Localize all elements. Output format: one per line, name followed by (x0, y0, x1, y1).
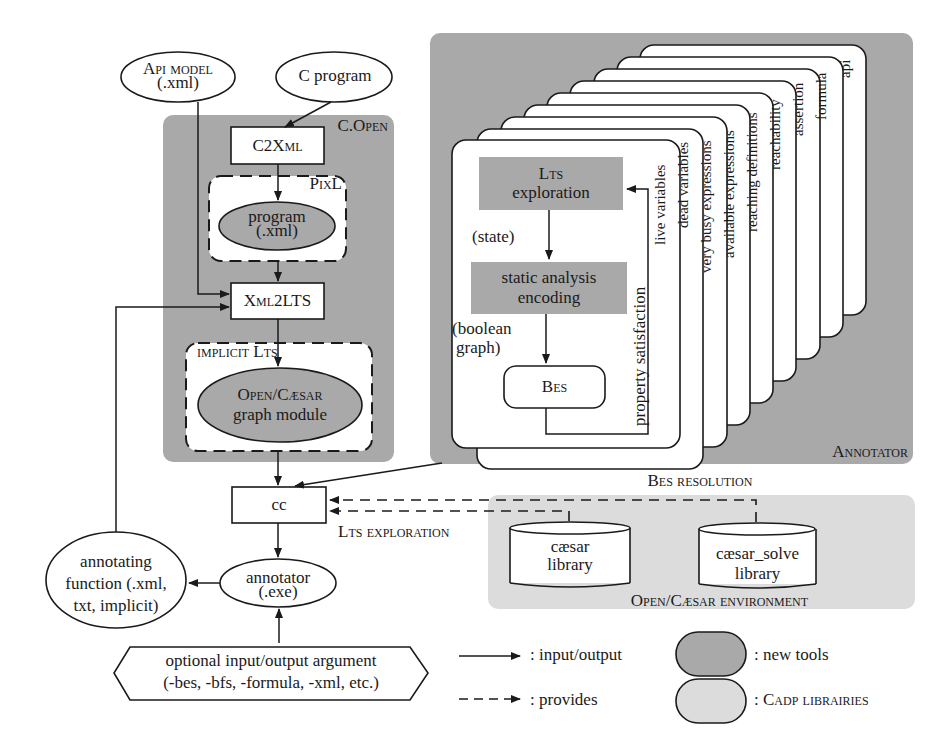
property-satisfaction-label: property satisfaction (630, 287, 650, 426)
annotating-function-line2: function (.xml, (46, 575, 186, 593)
card-reaching-definitions: reaching definitions (744, 112, 761, 232)
lts-exploration-title: Lts (479, 165, 623, 183)
pixl-title: PixL (280, 175, 342, 193)
bes-resolution-label: Bes resolution (620, 472, 780, 490)
card-assertion: assertion (790, 83, 807, 136)
xml2lts-label: Xml2LTS (231, 292, 324, 310)
legend-new-tools-label: : new tools (754, 646, 904, 664)
api-model-ext: (.xml) (128, 74, 228, 92)
c2xml-label: C2Xml (231, 137, 324, 155)
state-label: (state) (472, 228, 542, 246)
optional-args-line2: (-bes, -bfs, -formula, -xml, etc.) (114, 674, 428, 692)
lts-exploration-subtitle: exploration (479, 184, 623, 202)
program-ext: (.xml) (227, 222, 327, 240)
legend-provides-label: : provides (530, 691, 670, 709)
boolean-graph-label-2: graph) (456, 339, 536, 357)
card-available-expressions: available expressions (721, 130, 738, 258)
card-live-variables: live variables (652, 165, 669, 245)
lts-exploration-edge-label: Lts exploration (338, 523, 498, 541)
caesar-solve-library-line1: cæsar_solve (699, 545, 816, 563)
open-caesar-module-label: Open/Cæsar (210, 386, 350, 404)
c-program-label: C program (280, 67, 390, 85)
graph-module-label: graph module (210, 406, 350, 424)
card-api: api (837, 60, 854, 78)
caesar-library-line2: library (510, 556, 630, 574)
card-formula: formula (813, 73, 830, 120)
legend-new-tools-swatch (676, 632, 746, 676)
bes-label: Bes (504, 378, 605, 396)
encoding-label: encoding (471, 289, 627, 307)
environment-title: Open/Cæsar environment (600, 592, 808, 610)
caesar-library-line1: cæsar (510, 538, 630, 556)
annotating-function-line1: annotating (56, 553, 176, 571)
card-very-busy-expressions: very busy expressions (698, 141, 715, 273)
annotator-title: Annotator (760, 443, 908, 461)
legend-cadp-libraries-swatch (676, 679, 746, 723)
caesar-solve-library-line2: library (699, 565, 816, 583)
optional-args-line1: optional input/output argument (114, 652, 428, 670)
cc-label: cc (232, 496, 326, 514)
card-reachability: reachability (767, 99, 784, 170)
boolean-graph-label-1: (boolean (452, 320, 532, 338)
legend-cadp-libraries-label: : Cadp librairies (754, 691, 924, 709)
c-open-title: C.Open (300, 117, 388, 135)
implicit-lts-title: implicit Lts (197, 343, 317, 361)
legend-input-output-label: : input/output (530, 646, 670, 664)
card-dead-variables: dead variables (675, 142, 692, 228)
static-analysis-label: static analysis (471, 269, 627, 287)
annotating-function-line3: txt, implicit) (46, 597, 186, 615)
annotator-exe-line2: (.exe) (228, 583, 328, 601)
